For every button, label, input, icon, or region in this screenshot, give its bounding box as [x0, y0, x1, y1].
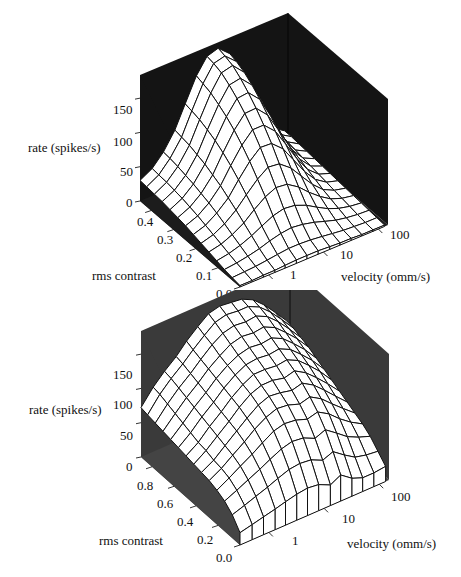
- top-x-tick-1: 1: [290, 268, 297, 281]
- bottom-y-tick-0.8: 0.8: [137, 479, 153, 492]
- top-surface-plot: rate (spikes/s) 150 100 50 0 0.4 0.3 0.2…: [0, 0, 461, 290]
- bottom-z-axis-label: rate (spikes/s): [29, 403, 102, 416]
- top-z-tick-150: 150: [113, 103, 133, 116]
- bottom-z-tick-0: 0: [126, 460, 133, 473]
- bottom-surface-plot: rate (spikes/s) 150 100 50 0 0.8 0.6 0.4…: [0, 290, 461, 577]
- top-y-tick-0.1: 0.1: [196, 269, 212, 282]
- bottom-x-axis-label: velocity (omm/s): [347, 537, 436, 550]
- top-x-tick-10: 10: [340, 248, 353, 261]
- top-y-tick-0.4: 0.4: [137, 215, 153, 228]
- bottom-y-axis-label: rms contrast: [99, 534, 163, 547]
- bottom-x-tick-1: 1: [292, 534, 299, 547]
- bottom-z-tick-50: 50: [120, 429, 133, 442]
- top-z-tick-100: 100: [113, 135, 133, 148]
- top-y-tick-0.2: 0.2: [176, 251, 192, 264]
- top-x-tick-100: 100: [390, 228, 410, 241]
- bottom-z-tick-150: 150: [113, 368, 133, 381]
- bottom-x-tick-100: 100: [391, 490, 411, 503]
- bottom-y-tick-0.0: 0.0: [216, 551, 232, 564]
- bottom-y-tick-0.2: 0.2: [197, 533, 213, 546]
- top-z-tick-0: 0: [126, 196, 133, 209]
- bottom-y-tick-0.4: 0.4: [177, 515, 193, 528]
- bottom-x-tick-10: 10: [342, 512, 355, 525]
- top-y-axis-label: rms contrast: [92, 269, 156, 282]
- top-y-tick-0.3: 0.3: [157, 233, 173, 246]
- top-z-axis-label: rate (spikes/s): [28, 141, 101, 154]
- top-z-tick-50: 50: [120, 165, 133, 178]
- bottom-surface-canvas: [0, 290, 461, 577]
- bottom-z-tick-100: 100: [113, 398, 133, 411]
- bottom-y-tick-0.6: 0.6: [157, 497, 173, 510]
- top-x-axis-label: velocity (omm/s): [341, 270, 430, 283]
